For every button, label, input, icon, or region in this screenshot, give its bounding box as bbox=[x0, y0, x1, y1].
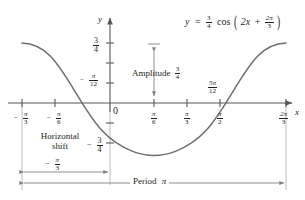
y-tick-pos-denominator: 4 bbox=[93, 46, 99, 54]
zero-left-denominator: 12 bbox=[89, 81, 98, 88]
x-tick-label-pi-over-2: π 2 bbox=[217, 109, 223, 126]
equation-equals: = bbox=[192, 17, 204, 27]
x-tick-3-denominator: 3 bbox=[184, 119, 190, 126]
equation-open-paren: ( bbox=[234, 14, 237, 30]
equation-amplitude-denominator: 4 bbox=[206, 23, 212, 30]
horizontal-shift-denominator: 3 bbox=[55, 165, 61, 172]
x-tick-2-denominator: 6 bbox=[151, 119, 157, 126]
y-tick-neg-denominator: 4 bbox=[97, 146, 103, 154]
x-tick-1-minus: − bbox=[47, 115, 52, 122]
equation-lhs: y bbox=[185, 17, 189, 27]
figure-canvas: y = 3 4 cos ( 2x + 2π 3 ) y x 0 3 4 − 3 … bbox=[0, 0, 305, 200]
x-tick-label-neg-pi-over-3: − π 3 bbox=[14, 109, 28, 126]
zero-left-minus: − bbox=[80, 77, 85, 84]
zero-right-denominator: 12 bbox=[208, 88, 217, 95]
amplitude-word: Amplitude bbox=[132, 69, 171, 78]
period-value: π bbox=[159, 177, 167, 186]
horizontal-shift-label: Horizontal shift bbox=[30, 132, 90, 151]
y-axis-label: y bbox=[98, 15, 102, 24]
equation-phase-fraction: 2π 3 bbox=[265, 15, 274, 30]
x-tick-label-pi-over-3: π 3 bbox=[184, 109, 190, 126]
x-intercept-label-left: − π 12 bbox=[80, 71, 98, 88]
x-tick-label-2pi-over-3: 2π 3 bbox=[279, 109, 288, 126]
horizontal-shift-value: − π 3 bbox=[45, 155, 60, 172]
equation-close-paren: ) bbox=[277, 14, 280, 30]
x-tick-0-denominator: 3 bbox=[23, 119, 29, 126]
origin-label: 0 bbox=[113, 106, 118, 116]
horizontal-shift-line1: Horizontal bbox=[30, 132, 90, 141]
x-axis bbox=[8, 99, 292, 107]
x-tick-1-denominator: 6 bbox=[56, 119, 62, 126]
x-tick-5-denominator: 3 bbox=[279, 119, 288, 126]
x-intercept-label-right: 5π 12 bbox=[208, 78, 217, 95]
equation-phase-denominator: 3 bbox=[265, 23, 274, 30]
x-tick-0-minus: − bbox=[14, 115, 19, 122]
y-tick-label-three-quarters: 3 4 bbox=[93, 36, 99, 54]
x-tick-label-neg-pi-over-6: − π 6 bbox=[47, 109, 61, 126]
horizontal-shift-minus: − bbox=[45, 160, 51, 168]
x-tick-label-pi-over-6: π 6 bbox=[151, 109, 157, 126]
equation-inner-term: 2x bbox=[241, 17, 250, 27]
amplitude-label: Amplitude 3 4 bbox=[132, 66, 180, 81]
x-tick-4-denominator: 2 bbox=[217, 119, 223, 126]
amplitude-denominator: 4 bbox=[175, 74, 181, 81]
period-label: Period π bbox=[130, 177, 169, 186]
equation-amplitude-fraction: 3 4 bbox=[206, 15, 212, 30]
period-word: Period bbox=[133, 177, 157, 186]
equation-label: y = 3 4 cos ( 2x + 2π 3 ) bbox=[185, 14, 282, 30]
horizontal-shift-line2: shift bbox=[30, 142, 90, 151]
equation-plus: + bbox=[253, 17, 263, 27]
x-axis-label: x bbox=[295, 108, 299, 117]
equation-function: cos bbox=[214, 17, 230, 27]
